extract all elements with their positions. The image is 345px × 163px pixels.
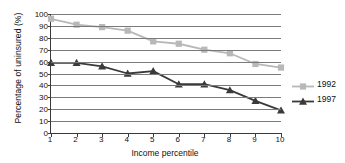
legend-item-1997[interactable]: 1997	[292, 91, 344, 106]
y-axis-tick	[48, 74, 51, 75]
gridline	[51, 109, 281, 110]
y-axis-tick-labels: 0102030405060708090100	[22, 0, 48, 163]
data-point-marker-square	[125, 28, 131, 34]
y-axis-tick-label: 30	[39, 93, 48, 102]
legend-marker-square-icon	[292, 78, 314, 89]
y-axis-tick-label: 60	[39, 57, 48, 66]
y-axis-tick	[48, 121, 51, 122]
x-axis-tick-label: 7	[201, 135, 205, 144]
gridline	[51, 62, 281, 63]
gridline	[51, 38, 281, 39]
y-axis-tick	[48, 97, 51, 98]
x-axis-tick-label: 2	[73, 135, 77, 144]
series-line	[51, 63, 281, 111]
y-axis-tick-label: 20	[39, 105, 48, 114]
y-axis-tick	[48, 14, 51, 15]
x-axis-tick-label: 1	[48, 135, 52, 144]
y-axis-tick-label: 100	[35, 10, 48, 19]
data-point-marker-square	[176, 41, 182, 47]
x-axis-tick-label: 8	[227, 135, 231, 144]
legend-item-1992[interactable]: 1992	[292, 76, 344, 91]
gridline	[51, 97, 281, 98]
gridline	[51, 74, 281, 75]
data-point-marker-square	[150, 38, 156, 44]
data-point-marker-square	[278, 64, 284, 70]
legend: 19921997	[292, 76, 344, 106]
gridline	[51, 14, 281, 15]
x-axis-tick-label: 9	[252, 135, 256, 144]
y-axis-tick-label: 90	[39, 21, 48, 30]
x-axis-tick-label: 4	[124, 135, 128, 144]
y-axis-tick	[48, 26, 51, 27]
gridline	[51, 85, 281, 86]
x-axis-title: Income percentile	[50, 148, 280, 158]
gridline	[51, 26, 281, 27]
y-axis-tick	[48, 109, 51, 110]
y-axis-tick-label: 10	[39, 117, 48, 126]
gridline	[51, 50, 281, 51]
plot-area	[50, 14, 281, 134]
y-axis-tick	[48, 85, 51, 86]
legend-label: 1997	[317, 94, 336, 104]
y-axis-tick-label: 80	[39, 33, 48, 42]
gridline	[51, 121, 281, 122]
y-axis-tick	[48, 50, 51, 51]
y-axis-tick-label: 40	[39, 81, 48, 90]
y-axis-tick	[48, 62, 51, 63]
x-axis-tick-label: 10	[276, 135, 285, 144]
legend-label: 1992	[317, 79, 336, 89]
y-axis-tick	[48, 38, 51, 39]
x-axis-tick-labels: 12345678910	[50, 135, 280, 147]
y-axis-tick-label: 70	[39, 45, 48, 54]
legend-marker-triangle-icon	[292, 93, 314, 104]
y-axis-tick-label: 50	[39, 69, 48, 78]
chart-figure: Percentage of uninsured (%) 010203040506…	[0, 0, 345, 163]
x-axis-tick-label: 5	[150, 135, 154, 144]
data-point-marker-square	[227, 50, 233, 56]
x-axis-tick-label: 3	[99, 135, 103, 144]
data-point-marker-square	[300, 83, 306, 89]
data-point-marker-square	[48, 16, 54, 22]
x-axis-tick-label: 6	[176, 135, 180, 144]
